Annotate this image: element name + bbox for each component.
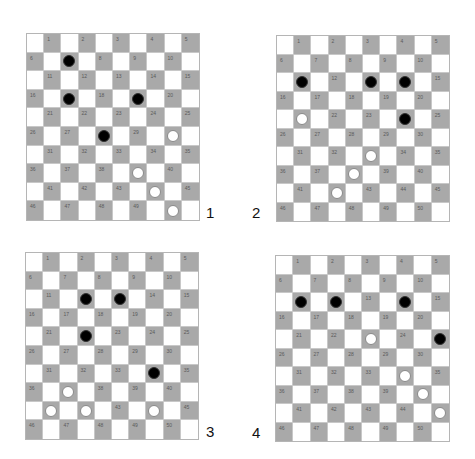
light-square [294, 166, 311, 185]
square-number: 34 [400, 149, 406, 155]
light-square [432, 129, 449, 148]
square-44: 44 [397, 404, 414, 423]
square-12 [328, 293, 345, 312]
square-2: 2 [79, 34, 96, 53]
light-square [414, 293, 431, 312]
light-square [182, 164, 199, 183]
square-37: 37 [311, 386, 328, 405]
light-square [345, 404, 362, 423]
square-27: 27 [311, 129, 328, 148]
light-square [293, 275, 310, 294]
square-42 [329, 184, 346, 203]
light-square [380, 404, 397, 423]
square-9: 9 [129, 272, 146, 291]
square-50 [165, 201, 182, 220]
square-15: 15 [182, 71, 199, 90]
square-number: 28 [349, 131, 355, 137]
light-square [129, 327, 146, 346]
square-number: 32 [332, 149, 338, 155]
square-number: 36 [30, 166, 36, 172]
square-16: 16 [27, 90, 44, 109]
light-square [96, 108, 113, 127]
light-square [129, 365, 146, 384]
light-square [182, 90, 199, 109]
light-square [415, 184, 432, 203]
square-number: 27 [314, 351, 320, 357]
board-label-4: 4 [252, 424, 260, 441]
square-number: 45 [185, 185, 191, 191]
square-40: 40 [164, 383, 181, 402]
light-square [79, 201, 96, 220]
square-number: 17 [314, 94, 320, 100]
square-44 [147, 183, 164, 202]
light-square [43, 346, 60, 365]
square-number: 3 [366, 38, 369, 44]
square-22 [78, 327, 95, 346]
square-46: 46 [26, 420, 43, 439]
square-number: 46 [29, 422, 35, 428]
checkers-board-2: 1234567891012151617181920222325262728293… [276, 35, 450, 222]
square-16: 16 [26, 309, 43, 328]
light-square [182, 53, 199, 72]
square-6: 6 [27, 53, 44, 72]
square-49: 49 [130, 201, 147, 220]
light-square [165, 183, 182, 202]
light-square [78, 272, 95, 291]
light-square [414, 367, 431, 386]
square-18: 18 [95, 309, 112, 328]
black-piece-icon [295, 296, 307, 308]
light-square [181, 272, 198, 291]
light-square [293, 312, 310, 331]
square-12: 12 [329, 73, 346, 92]
square-46: 46 [277, 203, 294, 222]
light-square [60, 327, 77, 346]
square-3: 3 [113, 34, 130, 53]
square-19: 19 [380, 92, 397, 111]
square-number: 43 [366, 186, 372, 192]
square-44: 44 [397, 184, 414, 203]
square-49: 49 [129, 420, 146, 439]
light-square [130, 108, 147, 127]
square-15: 15 [432, 293, 449, 312]
light-square [432, 275, 449, 294]
light-square [79, 53, 96, 72]
square-47: 47 [311, 203, 328, 222]
square-43: 43 [113, 183, 130, 202]
square-number: 43 [365, 406, 371, 412]
square-number: 18 [99, 92, 105, 98]
square-number: 34 [150, 148, 156, 154]
black-piece-icon [330, 296, 342, 308]
square-number: 9 [383, 277, 386, 283]
square-number: 30 [418, 131, 424, 137]
light-square [96, 34, 113, 53]
square-number: 2 [81, 255, 84, 261]
square-19: 19 [380, 312, 397, 331]
light-square [43, 383, 60, 402]
square-number: 22 [331, 332, 337, 338]
light-square [311, 330, 328, 349]
light-square [432, 55, 449, 74]
light-square [293, 386, 310, 405]
light-square [380, 293, 397, 312]
light-square [346, 184, 363, 203]
square-10: 10 [415, 55, 432, 74]
light-square [182, 127, 199, 146]
square-21 [294, 110, 311, 129]
light-square [345, 293, 362, 312]
square-1: 1 [294, 36, 311, 55]
light-square [380, 256, 397, 275]
black-piece-icon [63, 93, 75, 105]
light-square [380, 147, 397, 166]
square-number: 35 [435, 369, 441, 375]
square-33: 33 [362, 367, 379, 386]
white-piece-icon [434, 407, 446, 419]
square-5: 5 [181, 253, 198, 272]
light-square [311, 73, 328, 92]
light-square [130, 183, 147, 202]
light-square [146, 309, 163, 328]
light-square [328, 349, 345, 368]
square-number: 18 [98, 311, 104, 317]
square-number: 19 [383, 94, 389, 100]
white-piece-icon [399, 370, 411, 382]
square-42 [78, 402, 95, 421]
